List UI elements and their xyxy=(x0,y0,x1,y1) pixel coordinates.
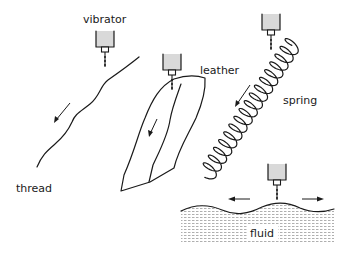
thread-label: thread xyxy=(16,182,52,195)
arrow-left-icon xyxy=(228,197,235,202)
arrow-right-icon xyxy=(317,197,324,202)
thread-line xyxy=(37,57,139,167)
thread-vibrator xyxy=(96,31,114,67)
leather-panel: leather xyxy=(121,54,240,191)
leather-arrow xyxy=(148,119,157,137)
thread-panel: vibrator thread xyxy=(16,13,139,195)
wave-media-diagram: vibrator thread leather spring xyxy=(0,0,345,259)
leather-sheet-outline xyxy=(121,76,205,191)
fluid-arrow-left xyxy=(228,197,250,202)
spring-vibrator xyxy=(262,14,280,50)
thread-arrow xyxy=(54,103,70,123)
fluid-label: fluid xyxy=(250,227,274,240)
spring-coil xyxy=(203,39,298,179)
spring-label: spring xyxy=(283,94,317,107)
spring-panel: spring xyxy=(203,14,317,179)
fluid-panel: fluid xyxy=(181,164,334,244)
vibrator-label: vibrator xyxy=(83,13,127,26)
fluid-vibrator xyxy=(268,164,286,200)
spring-arrow xyxy=(235,85,250,107)
fluid-arrow-right xyxy=(302,197,324,202)
leather-label: leather xyxy=(200,64,240,77)
arrow-head-icon xyxy=(148,130,153,137)
